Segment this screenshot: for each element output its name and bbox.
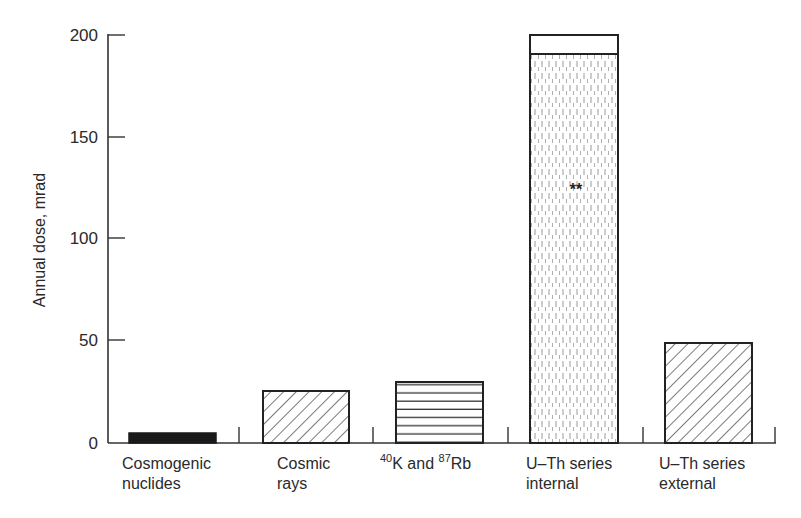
y-tick-150: 150 xyxy=(70,128,98,147)
category-label-cosmic-rays: Cosmic rays xyxy=(277,455,330,492)
bar-cosmic-rays xyxy=(263,391,349,443)
y-axis xyxy=(108,34,125,443)
y-tick-200: 200 xyxy=(70,26,98,45)
svg-text:internal: internal xyxy=(526,475,578,492)
svg-text:40K and 87Rb: 40K and 87Rb xyxy=(380,452,471,472)
category-label-uth-external: U–Th series external xyxy=(659,455,745,492)
bar-k-rb xyxy=(396,382,483,443)
svg-text:Cosmic: Cosmic xyxy=(277,455,330,472)
y-axis-label: Annual dose, mrad xyxy=(31,173,48,307)
svg-text:nuclides: nuclides xyxy=(122,475,181,492)
chart: 200 150 100 50 0 Annual dose, mrad ** Co… xyxy=(0,0,801,518)
y-tick-50: 50 xyxy=(79,331,98,350)
bar-uth-external xyxy=(665,343,752,443)
bar-cosmogenic-nuclides xyxy=(129,433,216,443)
y-tick-100: 100 xyxy=(70,229,98,248)
y-tick-0: 0 xyxy=(89,434,98,453)
svg-text:U–Th series: U–Th series xyxy=(526,455,612,472)
category-label-k-rb: 40K and 87Rb xyxy=(380,452,471,472)
category-label-cosmogenic: Cosmogenic nuclides xyxy=(122,455,211,492)
bar-uth-internal xyxy=(530,35,618,443)
svg-text:Cosmogenic: Cosmogenic xyxy=(122,455,211,472)
svg-text:rays: rays xyxy=(277,475,307,492)
svg-text:U–Th series: U–Th series xyxy=(659,455,745,472)
category-label-uth-internal: U–Th series internal xyxy=(526,455,612,492)
annotation-double-asterisk: ** xyxy=(570,181,583,198)
svg-text:external: external xyxy=(659,475,716,492)
